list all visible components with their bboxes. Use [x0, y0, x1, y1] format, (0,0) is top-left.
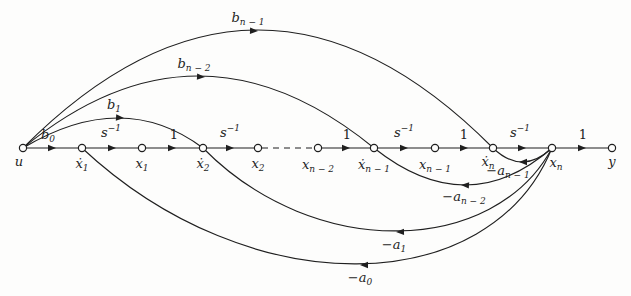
gain-label-bn1: bn − 1 — [231, 11, 264, 24]
graph-canvas — [0, 0, 631, 296]
node-xn1 — [431, 144, 438, 151]
node-xn1dot — [370, 144, 377, 151]
gain-label-unity-1: 1 — [170, 128, 178, 141]
node-xn2 — [314, 144, 321, 151]
node-xndot — [489, 144, 496, 151]
chain-arrow-x2dot-x2 — [226, 145, 234, 151]
gain-label-an2: −an − 2 — [442, 190, 485, 203]
arrow-bn2 — [197, 73, 205, 80]
node-label-x1: x1 — [135, 157, 148, 170]
chain-arrow-xn-y — [578, 145, 586, 151]
node-u — [19, 144, 26, 151]
arc-bn1 — [23, 30, 493, 148]
chain-arrow-xn1-xndot — [460, 145, 468, 151]
gain-label-bn2: bn − 2 — [177, 57, 210, 70]
chain-arrow-u-x1dot — [48, 145, 56, 151]
node-y — [608, 144, 615, 151]
signal-flow-graph-figure: b0 s−1 1 s−1 1 s−1 1 s−1 1 b1 bn − 2 bn … — [0, 0, 631, 296]
gain-label-integrator-4: s−1 — [510, 126, 530, 139]
node-x1 — [138, 144, 145, 151]
node-label-u: u — [15, 155, 23, 168]
chain-arrow-xn1dot-xn1 — [400, 145, 408, 151]
chain-arrow-x1-x2dot — [168, 145, 176, 151]
node-label-y: y — [608, 155, 615, 168]
node-label-xn1dot: ẋn − 1 — [358, 158, 390, 171]
node-label-x1dot: ẋ1 — [75, 157, 88, 170]
gain-label-integrator-3: s−1 — [394, 126, 414, 139]
node-x2 — [254, 144, 261, 151]
node-label-xndot: ẋn — [481, 155, 494, 168]
chain-arrow-xn2-xn1dot — [342, 145, 350, 151]
node-label-x2dot: ẋ2 — [196, 157, 209, 170]
node-x1dot — [78, 144, 85, 151]
arrow-b1 — [116, 114, 124, 121]
gain-label-b1: b1 — [107, 98, 121, 111]
node-label-xn2: xn − 2 — [302, 158, 334, 171]
gain-label-a0: −a0 — [348, 271, 372, 284]
chain-arrow-x1dot-x1 — [108, 145, 116, 151]
node-label-xn: xn — [549, 156, 562, 169]
gain-label-integrator-2: s−1 — [220, 126, 240, 139]
arrow-bn1 — [250, 28, 258, 35]
gain-label-unity-2: 1 — [343, 128, 351, 141]
chain-arrow-xndot-xn — [518, 145, 526, 151]
gain-label-a1: −a1 — [382, 238, 406, 251]
node-label-x2: x2 — [251, 157, 264, 170]
arrow-a1 — [396, 229, 404, 236]
gain-label-b0: b0 — [41, 128, 55, 141]
gain-label-integrator-1: s−1 — [101, 126, 121, 139]
gain-label-unity-3: 1 — [460, 128, 468, 141]
node-x2dot — [199, 144, 206, 151]
arrow-a0 — [360, 262, 368, 268]
node-xn — [548, 144, 555, 151]
arrow-an2 — [461, 182, 469, 189]
gain-label-unity-4: 1 — [579, 128, 587, 141]
arc-bn2 — [23, 76, 374, 148]
node-label-xn1: xn − 1 — [419, 158, 451, 171]
